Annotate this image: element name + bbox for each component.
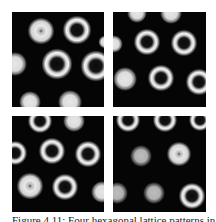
- lattice-spot: [185, 68, 206, 96]
- pattern-image: [12, 12, 104, 107]
- lattice-spot: [152, 116, 177, 133]
- lattice-spot: [113, 66, 138, 91]
- pattern-panel-bottom-right: [113, 116, 206, 212]
- lattice-spot: [147, 64, 175, 92]
- pattern-image: [113, 12, 206, 107]
- lattice-spot: [113, 35, 123, 53]
- lattice-spot: [115, 116, 140, 133]
- lattice-spot: [51, 173, 79, 201]
- pattern-panel-top-left: [12, 12, 104, 107]
- lattice-spot: [62, 15, 92, 45]
- lattice-spot: [12, 51, 28, 76]
- lattice-spot: [143, 182, 166, 205]
- lattice-spot: [160, 12, 183, 25]
- lattice-spot: [74, 140, 102, 168]
- pattern-image: [12, 116, 104, 212]
- lattice-spot: [63, 116, 86, 133]
- lattice-spot: [130, 145, 153, 168]
- lattice-spot: [12, 140, 28, 165]
- lattice-spot: [27, 116, 52, 134]
- pattern-panel-top-right: [113, 12, 206, 107]
- lattice-spot: [41, 48, 73, 80]
- lattice-spot: [113, 182, 129, 205]
- lattice-spot: [98, 35, 104, 49]
- lattice-spot: [133, 28, 161, 56]
- figure-caption: Figure 4.11: Four hexagonal lattice patt…: [12, 214, 212, 222]
- lattice-spot: [166, 141, 191, 166]
- lattice-spot: [91, 181, 105, 204]
- lattice-spot: [80, 50, 104, 82]
- lattice-spot: [170, 29, 198, 57]
- pattern-image: [113, 116, 206, 212]
- lattice-spot: [16, 172, 44, 200]
- lattice-spot: [38, 137, 66, 165]
- lattice-spot: [189, 116, 207, 132]
- figure: Figure 4.11: Four hexagonal lattice patt…: [0, 0, 216, 222]
- lattice-spot: [27, 17, 55, 45]
- lattice-spot: [19, 91, 42, 108]
- lattice-spot: [57, 89, 82, 107]
- lattice-spot: [178, 182, 206, 210]
- lattice-spot: [127, 12, 148, 23]
- pattern-panel-bottom-left: [12, 116, 104, 212]
